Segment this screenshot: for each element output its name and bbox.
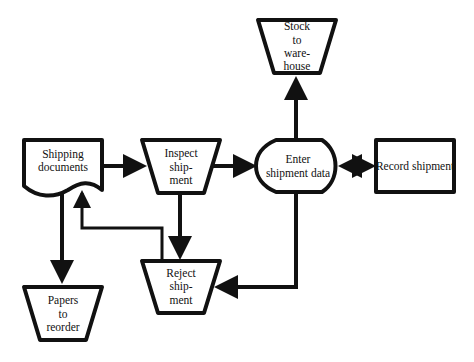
label-line: Inspect xyxy=(164,147,198,160)
label-line: reorder xyxy=(46,321,79,333)
label-line: shipment data xyxy=(266,167,330,180)
node-reject-shipment: Reject ship- ment xyxy=(142,261,220,313)
node-papers-to-reorder: Papers to reorder xyxy=(24,287,102,340)
label-line: ware- xyxy=(284,47,310,59)
label-line: ship- xyxy=(170,280,193,293)
flowchart-canvas: Shipping documents Inspect ship- ment En… xyxy=(0,0,474,362)
label-line: ment xyxy=(170,174,194,186)
label-line: ship- xyxy=(170,161,193,174)
node-record-shipment: Record shipment xyxy=(376,140,455,192)
label-line: house xyxy=(284,60,311,72)
label-line: to xyxy=(59,308,68,320)
node-stock-to-warehouse: Stock to ware- house xyxy=(258,20,336,73)
node-enter-shipment-data: Enter shipment data xyxy=(256,140,336,192)
edge-reject-to-shipping xyxy=(82,193,162,259)
label-line: Shipping xyxy=(42,148,84,161)
label-line: to xyxy=(293,34,302,46)
label-line: Reject xyxy=(166,267,196,280)
node-shipping-documents: Shipping documents xyxy=(24,140,102,196)
label-line: documents xyxy=(38,161,88,173)
label-line: Record shipment xyxy=(376,160,455,173)
edge-enter-to-reject xyxy=(218,194,296,287)
label-line: ment xyxy=(170,294,194,306)
label-line: Papers xyxy=(48,294,79,307)
label-line: Enter xyxy=(286,153,311,165)
label-line: Stock xyxy=(284,20,310,32)
node-inspect-shipment: Inspect ship- ment xyxy=(142,140,220,193)
